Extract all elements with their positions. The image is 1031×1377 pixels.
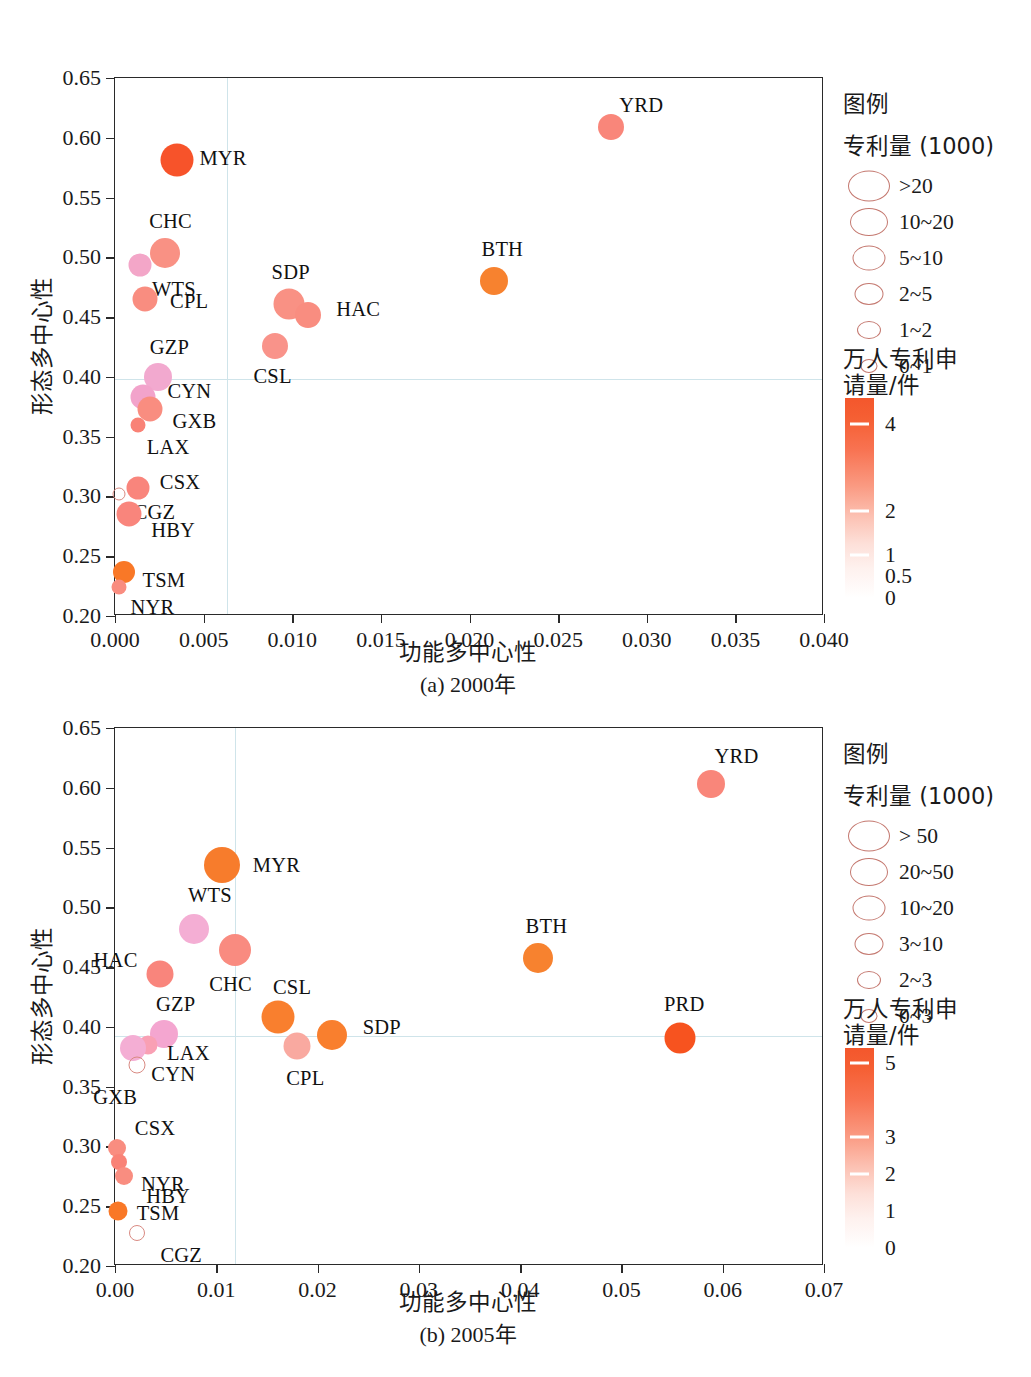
colorbar-title-a: 万人专利申 请量/件 [843, 346, 958, 398]
colorbar-tick-label: 1 [885, 1198, 896, 1223]
x-axis-title-b: 功能多中心性 [399, 1284, 537, 1316]
scatter-label-hac: HAC [94, 949, 138, 972]
y-axis-tick-label: 0.35 [63, 424, 116, 450]
colorbar-title-b: 万人专利申 请量/件 [843, 996, 958, 1048]
scatter-label-csx: CSX [160, 471, 200, 494]
x-axis-tick [558, 614, 559, 623]
y-axis-tick-label: 0.40 [63, 364, 116, 390]
scatter-bubble-cgz[interactable] [112, 488, 125, 501]
legend-b: 图例 专利量 (1000) > 5020~5010~203~102~30~3 [843, 736, 994, 812]
legend-size-label: 10~20 [899, 210, 954, 235]
reference-line-vertical [235, 728, 236, 1264]
scatter-bubble-cpl[interactable] [284, 1033, 311, 1060]
scatter-bubble-bth[interactable] [523, 943, 553, 973]
legend-bubble-ring-icon [855, 283, 884, 305]
scatter-bubble-gxb[interactable] [129, 1057, 146, 1074]
x-axis-tick [470, 614, 471, 623]
scatter-bubble-cgz[interactable] [129, 1225, 145, 1241]
x-axis-tick-label: 0.06 [703, 1277, 742, 1303]
scatter-label-lax: LAX [147, 435, 190, 458]
colorbar-tick [850, 510, 869, 513]
scatter-bubble-myr[interactable] [161, 144, 194, 177]
scatter-bubble-nyr[interactable] [111, 580, 126, 595]
colorbar-title-line1-b: 万人专利申 [843, 996, 958, 1022]
y-axis-tick-label: 0.40 [63, 1014, 116, 1040]
y-axis-tick-label: 0.60 [63, 775, 116, 801]
scatter-label-cpl: CPL [286, 1067, 324, 1090]
scatter-label-tsm: TSM [137, 1202, 180, 1225]
scatter-bubble-lax[interactable] [131, 417, 146, 432]
y-axis-title-b: 形态多中心性 [24, 927, 56, 1065]
scatter-label-csl: CSL [253, 364, 291, 387]
scatter-bubble-csl[interactable] [262, 333, 288, 359]
scatter-label-yrd: YRD [619, 94, 663, 117]
x-axis-title-a: 功能多中心性 [399, 634, 537, 666]
scatter-label-myr: MYR [253, 854, 300, 877]
y-axis-tick-label: 0.65 [63, 715, 116, 741]
colorbar-tick [850, 1061, 869, 1064]
scatter-bubble-tsm[interactable] [109, 1202, 128, 1221]
y-axis-tick-label: 0.20 [63, 603, 116, 629]
scatter-bubble-wts[interactable] [128, 253, 151, 276]
scatter-bubble-prd[interactable] [665, 1022, 696, 1053]
legend-size-label: > 50 [899, 824, 938, 849]
colorbar-tick [850, 1172, 869, 1175]
legend-size-label: 5~10 [899, 246, 943, 271]
scatter-bubble-chc[interactable] [219, 934, 251, 966]
x-axis-tick-label: 0.01 [197, 1277, 236, 1303]
x-axis-tick-label: 0.040 [799, 627, 849, 653]
panel-caption-b: (b) 2005年 [419, 1316, 516, 1348]
reference-line-horizontal [115, 379, 822, 380]
scatter-bubble-yrd[interactable] [598, 114, 624, 140]
scatter-label-chc: CHC [149, 209, 192, 232]
scatter-bubble-myr[interactable] [204, 847, 240, 883]
legend-a: 图例 专利量 (1000) >2010~205~102~51~20~1 [843, 86, 994, 162]
scatter-bubble-csl[interactable] [262, 1001, 295, 1034]
scatter-bubble-wts[interactable] [179, 914, 209, 944]
scatter-bubble-chc[interactable] [150, 238, 180, 268]
legend-bubble-ring-icon [850, 858, 888, 886]
scatter-label-gxb: GXB [172, 410, 216, 433]
colorbar-title-line2-b: 请量/件 [843, 1022, 958, 1048]
scatter-label-chc: CHC [209, 973, 252, 996]
colorbar-tick-label: 2 [885, 499, 896, 524]
x-axis-tick-label: 0.030 [622, 627, 672, 653]
legend-size-title-a: 专利量 (1000) [843, 128, 994, 160]
x-axis-tick [824, 1264, 825, 1273]
legend-size-label: >20 [899, 174, 933, 199]
y-axis-title-a: 形态多中心性 [24, 277, 56, 415]
colorbar-tick-label: 4 [885, 412, 896, 437]
scatter-bubble-bth[interactable] [480, 267, 508, 295]
colorbar-tick-label: 2 [885, 1161, 896, 1186]
scatter-label-csl: CSL [273, 976, 311, 999]
data-points-layer-b: 0.200.250.300.350.400.450.500.550.600.65… [115, 728, 822, 1264]
scatter-label-yrd: YRD [715, 745, 759, 768]
data-points-layer-a: 0.200.250.300.350.400.450.500.550.600.65… [115, 78, 822, 614]
scatter-label-hac: HAC [336, 297, 380, 320]
scatter-label-bth: BTH [526, 914, 568, 937]
plot-area-a: 0.200.250.300.350.400.450.500.550.600.65… [114, 77, 823, 615]
scatter-bubble-sdp[interactable] [317, 1020, 347, 1050]
scatter-bubble-hby[interactable] [117, 502, 142, 527]
y-axis-tick-label: 0.55 [63, 185, 116, 211]
legend-title-b: 图例 [843, 736, 994, 768]
scatter-bubble-hby[interactable] [115, 1167, 133, 1185]
reference-line-horizontal [115, 1036, 822, 1037]
scatter-bubble-csx[interactable] [127, 477, 150, 500]
legend-bubble-ring-icon [855, 933, 884, 955]
scatter-bubble-hac[interactable] [146, 961, 173, 988]
y-axis-tick-label: 0.30 [63, 483, 116, 509]
x-axis-tick [292, 614, 293, 623]
legend-size-label: 1~2 [899, 318, 932, 343]
x-axis-tick-label: 0.05 [602, 1277, 641, 1303]
scatter-bubble-cpl[interactable] [133, 287, 158, 312]
x-axis-tick [419, 1264, 420, 1273]
colorbar-tick-label: 0 [885, 1236, 896, 1261]
legend-bubble-ring-icon [853, 896, 886, 921]
y-axis-tick-label: 0.25 [63, 1193, 116, 1219]
scatter-bubble-hac[interactable] [295, 302, 321, 328]
scatter-bubble-yrd[interactable] [697, 770, 725, 798]
y-axis-tick-label: 0.50 [63, 894, 116, 920]
legend-bubble-ring-icon [848, 821, 890, 852]
y-axis-tick-label: 0.50 [63, 244, 116, 270]
